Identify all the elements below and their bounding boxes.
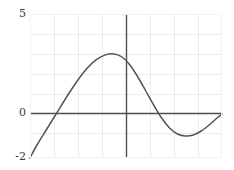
plot-canvas (0, 0, 234, 170)
y-axis-tick-label-0: 0 (6, 107, 26, 118)
chart-figure: 5 0 -2 (0, 0, 234, 170)
y-axis-tick-label-5: 5 (6, 8, 26, 19)
y-axis-tick-label-minus-2: -2 (2, 151, 26, 162)
